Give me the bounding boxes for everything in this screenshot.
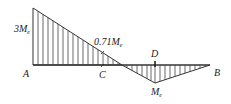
- point-c-label: C: [99, 69, 106, 80]
- point-a-label: A: [22, 68, 30, 79]
- moment-diagram: 3Me 0.71Me D Me A C B: [0, 0, 231, 104]
- max-moment-label: 3Me: [13, 23, 30, 35]
- negative-moment-region: [122, 65, 210, 83]
- point-b-label: B: [214, 67, 220, 78]
- d-moment-label: Me: [150, 86, 162, 98]
- point-d-label: D: [150, 48, 159, 59]
- c-moment-label: 0.71Me: [94, 36, 123, 48]
